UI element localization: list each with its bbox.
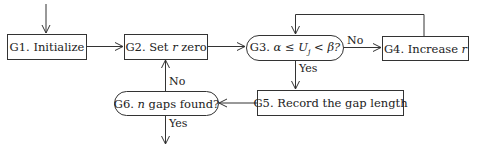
node-g6-decision: G6. n gaps found? <box>114 91 219 116</box>
edge-label-g3-yes: Yes <box>299 62 317 75</box>
edge-label-g6-no: No <box>169 75 185 88</box>
node-g1-label: G1. Initialize <box>10 40 85 54</box>
edges-layer <box>0 0 477 155</box>
node-g3-label: G3. α ≤ Uj < β? <box>250 40 340 56</box>
node-g5-label: G5. Record the gap length <box>253 96 407 110</box>
node-g2-set-r-zero: G2. Set r zero <box>124 34 208 60</box>
node-g2-label: G2. Set r zero <box>125 40 206 54</box>
node-g4-label: G4. Increase r <box>384 42 467 56</box>
node-g4-increase-r: G4. Increase r <box>382 36 469 61</box>
node-g6-label: G6. n gaps found? <box>114 97 220 111</box>
edge-g4-g3 <box>296 15 425 37</box>
node-g5-record-gap: G5. Record the gap length <box>257 90 404 116</box>
edge-label-g3-no: No <box>347 34 363 47</box>
node-g1-initialize: G1. Initialize <box>7 34 87 60</box>
edge-label-g6-yes: Yes <box>169 117 187 130</box>
node-g3-decision: G3. α ≤ Uj < β? <box>246 35 344 61</box>
